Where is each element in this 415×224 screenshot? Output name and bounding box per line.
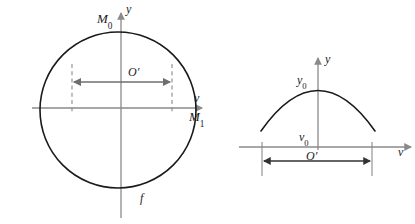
label-o-prime-right: O′ <box>306 150 317 162</box>
label-v-axis-right: v <box>398 146 403 158</box>
left-panel-group <box>32 13 202 218</box>
label-m0: M0 <box>97 12 113 29</box>
right-panel-group <box>239 58 411 176</box>
label-y-axis-right: y <box>325 53 330 65</box>
figure-graphics <box>0 0 415 224</box>
label-v0: v0 <box>299 131 309 146</box>
label-o-prime-left: O′ <box>128 66 139 78</box>
label-v-axis-left: v <box>194 92 199 104</box>
label-m1: M1 <box>189 110 205 127</box>
figure-canvas: M0 y v M1 O′ f y y0 v0 O′ v <box>0 0 415 224</box>
label-y0: y0 <box>297 74 307 89</box>
label-y-axis-left: y <box>126 3 131 15</box>
label-f-curve: f <box>140 192 143 204</box>
circle-curve <box>40 32 196 188</box>
